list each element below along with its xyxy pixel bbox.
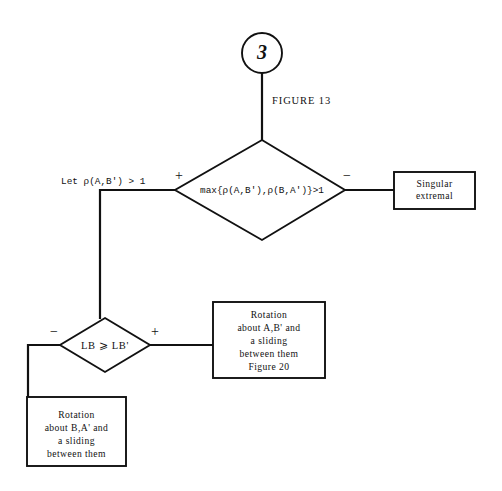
decision-top-minus-sign: − xyxy=(343,168,351,183)
decision-bottom-label: LB ⩾ LB' xyxy=(81,340,129,351)
box-rotation-ba-line-1: Rotation xyxy=(58,409,95,420)
box-rotation-ab: Rotation about A,B' and a sliding betwee… xyxy=(213,302,325,378)
box-singular-extremal-line-1: Singular xyxy=(416,178,452,189)
decision-bottom-node: LB ⩾ LB' − + xyxy=(50,318,159,372)
flowchart-svg: 3 FIGURE 13 max{ρ(A,B'),ρ(B,A')}>1 + − L… xyxy=(0,0,502,491)
edge-decision-bottom-minus-to-rotation-ba xyxy=(28,345,60,397)
box-rotation-ab-line-4: between them xyxy=(240,348,299,359)
figure-caption: FIGURE 13 xyxy=(272,95,331,106)
decision-bottom-minus-sign: − xyxy=(50,324,58,339)
box-rotation-ba-line-2: about B,A' and xyxy=(45,422,109,433)
decision-top-node: max{ρ(A,B'),ρ(B,A')}>1 + − xyxy=(175,140,351,240)
box-rotation-ab-line-5: Figure 20 xyxy=(248,361,289,372)
precondition-label: Let ρ(A,B') > 1 xyxy=(61,176,146,187)
decision-top-label: max{ρ(A,B'),ρ(B,A')}>1 xyxy=(200,185,324,196)
connector-circle-label: 3 xyxy=(256,41,267,63)
box-rotation-ab-line-1: Rotation xyxy=(251,309,288,320)
box-singular-extremal: Singular extremal xyxy=(394,172,475,209)
edge-decision-top-plus-to-decision-bottom xyxy=(100,190,175,318)
connector-circle-node: 3 xyxy=(242,33,282,73)
flowchart-figure: 3 FIGURE 13 max{ρ(A,B'),ρ(B,A')}>1 + − L… xyxy=(0,0,502,491)
decision-bottom-plus-sign: + xyxy=(151,324,159,339)
box-rotation-ab-line-3: a sliding xyxy=(251,335,288,346)
box-rotation-ba-line-3: a sliding xyxy=(58,435,95,446)
box-rotation-ba: Rotation about B,A' and a sliding betwee… xyxy=(27,397,126,466)
box-singular-extremal-line-2: extremal xyxy=(416,190,453,201)
decision-top-plus-sign: + xyxy=(175,168,183,183)
box-rotation-ab-line-2: about A,B' and xyxy=(237,322,300,333)
box-rotation-ba-line-4: between them xyxy=(47,448,106,459)
